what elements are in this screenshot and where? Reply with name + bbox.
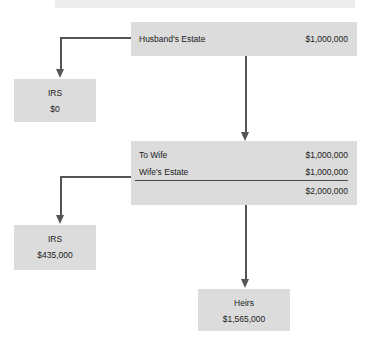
husband-estate-box: Husband's Estate $1,000,000	[131, 22, 357, 56]
estate-flow-diagram: Husband's Estate $1,000,000 IRS $0 To Wi…	[0, 0, 372, 340]
connector-husband-to-wife-vertical	[245, 56, 247, 133]
heirs-value: $1,565,000	[198, 314, 290, 324]
to-wife-label: To Wife	[139, 147, 167, 163]
wife-estate-row: Wife's Estate $1,000,000	[139, 164, 348, 180]
connector-husband-to-irs-vertical	[60, 37, 62, 70]
wife-estate-label: Wife's Estate	[139, 164, 188, 180]
wife-estate-box: To Wife $1,000,000 Wife's Estate $1,000,…	[131, 141, 357, 205]
arrowhead-husband-to-irs	[56, 69, 64, 78]
husband-estate-amount: $1,000,000	[305, 31, 348, 47]
irs-bottom-title: IRS	[14, 234, 96, 244]
irs-bottom-box: IRS $435,000	[14, 225, 96, 270]
irs-top-title: IRS	[14, 88, 96, 98]
wife-total-amount: $2,000,000	[305, 183, 348, 199]
connector-wife-to-heirs-vertical	[245, 205, 247, 280]
heirs-title: Heirs	[198, 298, 290, 308]
arrowhead-wife-to-heirs	[241, 279, 249, 288]
connector-wife-to-irs-horizontal	[60, 176, 131, 178]
wife-estate-amount: $1,000,000	[305, 164, 348, 180]
arrowhead-husband-to-wife	[241, 132, 249, 141]
husband-estate-row: Husband's Estate $1,000,000	[139, 31, 348, 47]
irs-top-value: $0	[14, 104, 96, 114]
arrowhead-wife-to-irs	[56, 215, 64, 224]
irs-top-box: IRS $0	[14, 79, 96, 122]
husband-estate-label: Husband's Estate	[139, 31, 205, 47]
sum-rule-divider	[135, 180, 348, 181]
top-header-bar	[55, 0, 355, 8]
wife-total-row: $2,000,000	[139, 183, 348, 199]
irs-bottom-value: $435,000	[14, 250, 96, 260]
connector-husband-to-irs-horizontal	[60, 37, 131, 39]
connector-wife-to-irs-vertical	[60, 176, 62, 216]
heirs-box: Heirs $1,565,000	[198, 289, 290, 331]
to-wife-row: To Wife $1,000,000	[139, 147, 348, 163]
to-wife-amount: $1,000,000	[305, 147, 348, 163]
